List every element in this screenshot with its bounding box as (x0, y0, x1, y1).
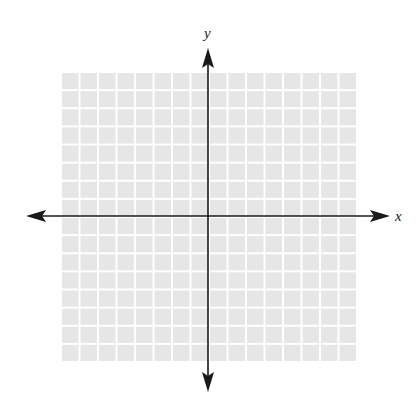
grid-cell (155, 164, 172, 180)
grid-cell (284, 164, 301, 180)
grid-cell (210, 182, 227, 198)
grid-cell (266, 127, 283, 143)
grid-cell (136, 345, 153, 361)
grid-cell (210, 73, 227, 89)
grid-cell (303, 182, 320, 198)
grid-cell (118, 182, 135, 198)
grid-cell (192, 327, 209, 343)
grid-cell (247, 164, 264, 180)
grid-cell (81, 345, 98, 361)
grid-cell (118, 327, 135, 343)
grid-cell (62, 200, 79, 216)
grid-cell (136, 254, 153, 270)
grid-cell (118, 127, 135, 143)
grid-cell (321, 327, 338, 343)
grid-cell (118, 91, 135, 107)
grid-cell (155, 73, 172, 89)
grid-cell (340, 146, 357, 162)
grid-cell (247, 200, 264, 216)
grid-cell (210, 254, 227, 270)
grid-cell (62, 291, 79, 307)
grid-cell (284, 73, 301, 89)
grid-cell (81, 291, 98, 307)
grid-cell (62, 254, 79, 270)
grid-cell (81, 218, 98, 234)
grid-cell (81, 73, 98, 89)
grid-cell (62, 309, 79, 325)
grid-cell (247, 109, 264, 125)
grid-cell (247, 73, 264, 89)
grid-cell (62, 146, 79, 162)
grid-cell (321, 200, 338, 216)
grid-cell (210, 127, 227, 143)
grid-cell (303, 146, 320, 162)
grid-cell (284, 291, 301, 307)
grid-cell (266, 218, 283, 234)
grid-cell (284, 91, 301, 107)
grid-cell (173, 345, 190, 361)
grid-cell (155, 146, 172, 162)
grid-cell (266, 327, 283, 343)
grid-cell (99, 91, 116, 107)
grid-cell (99, 109, 116, 125)
grid-cell (99, 73, 116, 89)
grid-cell (340, 236, 357, 252)
grid-cell (321, 218, 338, 234)
grid-cell (192, 218, 209, 234)
grid-cell (99, 218, 116, 234)
grid-cell (321, 73, 338, 89)
grid-cell (118, 309, 135, 325)
grid-cell (303, 200, 320, 216)
grid-cell (247, 291, 264, 307)
grid-cell (210, 91, 227, 107)
grid-cell (99, 254, 116, 270)
grid-cell (266, 309, 283, 325)
grid-cell (118, 146, 135, 162)
grid-cell (62, 164, 79, 180)
grid-cell (247, 146, 264, 162)
grid-cell (321, 91, 338, 107)
grid-cell (266, 164, 283, 180)
grid-cell (229, 291, 246, 307)
grid-cell (155, 236, 172, 252)
grid-cell (81, 327, 98, 343)
grid-cell (210, 327, 227, 343)
grid-cell (173, 164, 190, 180)
grid-cell (210, 200, 227, 216)
grid-cell (266, 109, 283, 125)
grid-cell (81, 309, 98, 325)
grid-cell (210, 345, 227, 361)
grid-cell (284, 345, 301, 361)
grid-cell (303, 309, 320, 325)
grid-cell (192, 291, 209, 307)
grid-cell (229, 164, 246, 180)
grid-cell (173, 109, 190, 125)
grid-cell (99, 182, 116, 198)
grid-cell (99, 345, 116, 361)
grid-cell (229, 127, 246, 143)
grid-cell (118, 236, 135, 252)
grid-cell (99, 272, 116, 288)
grid-cell (266, 146, 283, 162)
grid-cell (247, 127, 264, 143)
grid-cell (284, 218, 301, 234)
grid-cell (118, 272, 135, 288)
grid-cell (173, 146, 190, 162)
grid-cell (303, 164, 320, 180)
grid-cell (321, 272, 338, 288)
grid-cell (192, 91, 209, 107)
grid-cell (247, 236, 264, 252)
grid-cell (303, 327, 320, 343)
grid-cell (340, 109, 357, 125)
grid-cell (136, 200, 153, 216)
grid-cell (81, 164, 98, 180)
grid-cell (192, 73, 209, 89)
grid-cell (81, 236, 98, 252)
grid-cell (173, 309, 190, 325)
grid-cell (284, 272, 301, 288)
grid-cell (229, 254, 246, 270)
grid-cell (81, 272, 98, 288)
grid-cell (340, 309, 357, 325)
grid-cell (62, 327, 79, 343)
grid-cell (99, 291, 116, 307)
